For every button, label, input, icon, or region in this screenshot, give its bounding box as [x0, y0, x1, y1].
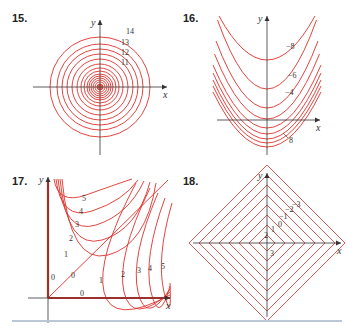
- svg-text:−4: −4: [285, 88, 294, 97]
- svg-text:y: y: [38, 174, 44, 185]
- svg-text:0: 0: [51, 273, 55, 282]
- svg-text:3: 3: [137, 266, 141, 275]
- svg-text:13: 13: [121, 38, 129, 47]
- section-divider: [12, 320, 342, 322]
- svg-text:12: 12: [121, 48, 129, 57]
- svg-text:2: 2: [121, 270, 125, 279]
- panel-18: 18. xy−3−2−10123: [175, 165, 347, 326]
- svg-text:x: x: [165, 300, 171, 311]
- panel-17: 17. xy5432100012345: [0, 165, 175, 326]
- svg-text:1: 1: [271, 225, 275, 234]
- svg-text:−8: −8: [286, 42, 295, 51]
- panel-15: 15. xy14131211: [0, 0, 175, 165]
- svg-text:3: 3: [270, 249, 274, 258]
- svg-text:x: x: [162, 89, 168, 100]
- panel-16: 16. xy−8−6−48: [175, 0, 347, 165]
- contour-plot-17: xy5432100012345: [0, 165, 175, 326]
- contour-plot-16: xy−8−6−48: [175, 0, 347, 165]
- svg-text:y: y: [90, 17, 96, 28]
- svg-text:1: 1: [99, 276, 103, 285]
- svg-text:8: 8: [289, 136, 293, 145]
- svg-text:−6: −6: [288, 71, 297, 80]
- contour-plot-18: xy−3−2−10123: [175, 165, 347, 326]
- svg-text:y: y: [257, 13, 263, 24]
- svg-text:0: 0: [278, 220, 282, 229]
- contour-plot-15: xy14131211: [0, 0, 175, 165]
- svg-text:4: 4: [148, 264, 152, 273]
- svg-text:0: 0: [71, 271, 75, 280]
- svg-text:5: 5: [161, 262, 165, 271]
- svg-text:4: 4: [79, 207, 83, 216]
- svg-text:x: x: [315, 122, 321, 133]
- svg-text:3: 3: [75, 220, 79, 229]
- svg-text:2: 2: [264, 231, 268, 240]
- svg-text:5: 5: [82, 194, 86, 203]
- svg-text:y: y: [257, 170, 263, 181]
- svg-text:x: x: [336, 245, 342, 256]
- svg-text:11: 11: [121, 58, 129, 67]
- svg-text:14: 14: [126, 27, 134, 36]
- svg-text:2: 2: [69, 234, 73, 243]
- svg-text:1: 1: [64, 250, 68, 259]
- svg-text:0: 0: [80, 289, 84, 298]
